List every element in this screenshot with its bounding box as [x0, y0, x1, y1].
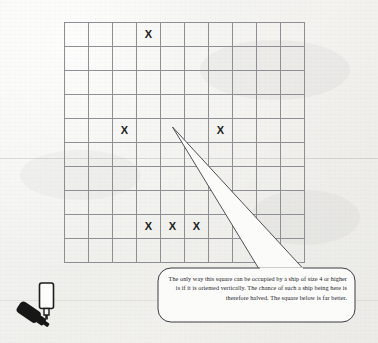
grid-cell-r9-c2[interactable] — [113, 239, 137, 263]
grid-cell-r1-c6[interactable] — [209, 47, 233, 71]
grid-cell-r7-c3[interactable] — [137, 191, 161, 215]
grid-cell-r1-c2[interactable] — [113, 47, 137, 71]
grid-cell-r9-c6[interactable] — [209, 239, 233, 263]
grid-cell-r0-c2[interactable] — [113, 23, 137, 47]
grid-cell-r7-c9[interactable] — [281, 191, 305, 215]
grid-cell-r3-c3[interactable] — [137, 95, 161, 119]
grid-cell-r3-c7[interactable] — [233, 95, 257, 119]
grid-cell-r0-c8[interactable] — [257, 23, 281, 47]
grid-cell-r5-c9[interactable] — [281, 143, 305, 167]
grid-cell-r3-c8[interactable] — [257, 95, 281, 119]
grid-cell-r0-c5[interactable] — [185, 23, 209, 47]
grid-cell-r6-c7[interactable] — [233, 167, 257, 191]
grid-cell-r4-c8[interactable] — [257, 119, 281, 143]
grid-cell-r1-c1[interactable] — [89, 47, 113, 71]
grid-cell-r1-c7[interactable] — [233, 47, 257, 71]
grid-cell-r9-c8[interactable] — [257, 239, 281, 263]
grid-cell-r7-c4[interactable] — [161, 191, 185, 215]
grid-cell-r0-c7[interactable] — [233, 23, 257, 47]
grid-cell-r9-c1[interactable] — [89, 239, 113, 263]
grid-cell-r5-c0[interactable] — [65, 143, 89, 167]
grid-cell-r9-c9[interactable] — [281, 239, 305, 263]
grid-cell-r6-c5[interactable] — [185, 167, 209, 191]
grid-cell-r8-c6[interactable] — [209, 215, 233, 239]
grid-cell-r3-c5[interactable] — [185, 95, 209, 119]
grid-cell-r1-c3[interactable] — [137, 47, 161, 71]
grid-cell-r9-c7[interactable] — [233, 239, 257, 263]
grid-cell-r7-c1[interactable] — [89, 191, 113, 215]
grid-cell-r1-c8[interactable] — [257, 47, 281, 71]
grid-cell-r6-c4[interactable] — [161, 167, 185, 191]
grid-cell-r6-c2[interactable] — [113, 167, 137, 191]
grid-cell-r1-c4[interactable] — [161, 47, 185, 71]
grid-cell-r4-c0[interactable] — [65, 119, 89, 143]
grid-cell-r8-c8[interactable] — [257, 215, 281, 239]
grid-cell-r9-c3[interactable] — [137, 239, 161, 263]
grid-cell-r4-c3[interactable] — [137, 119, 161, 143]
grid-cell-r0-c0[interactable] — [65, 23, 89, 47]
grid-cell-r3-c2[interactable] — [113, 95, 137, 119]
grid-cell-r4-c9[interactable] — [281, 119, 305, 143]
grid-cell-r0-c9[interactable] — [281, 23, 305, 47]
grid-cell-r3-c0[interactable] — [65, 95, 89, 119]
grid-cell-r6-c6[interactable] — [209, 167, 233, 191]
grid-cell-r7-c2[interactable] — [113, 191, 137, 215]
grid-cell-r6-c0[interactable] — [65, 167, 89, 191]
grid-cell-r2-c3[interactable] — [137, 71, 161, 95]
grid-cell-r8-c4[interactable]: X — [161, 215, 185, 239]
grid-cell-r4-c1[interactable] — [89, 119, 113, 143]
grid-cell-r5-c3[interactable] — [137, 143, 161, 167]
grid-cell-r7-c7[interactable] — [233, 191, 257, 215]
grid-cell-r5-c8[interactable] — [257, 143, 281, 167]
grid-cell-r2-c2[interactable] — [113, 71, 137, 95]
grid-cell-r7-c6[interactable] — [209, 191, 233, 215]
grid-cell-r5-c7[interactable] — [233, 143, 257, 167]
grid-cell-r2-c0[interactable] — [65, 71, 89, 95]
grid-cell-r5-c1[interactable] — [89, 143, 113, 167]
grid-cell-r8-c0[interactable] — [65, 215, 89, 239]
grid-cell-r8-c9[interactable] — [281, 215, 305, 239]
grid-cell-r5-c5[interactable] — [185, 143, 209, 167]
grid-cell-r6-c3[interactable] — [137, 167, 161, 191]
grid-cell-r6-c1[interactable] — [89, 167, 113, 191]
grid-cell-r3-c1[interactable] — [89, 95, 113, 119]
grid-cell-r0-c6[interactable] — [209, 23, 233, 47]
grid-cell-r9-c4[interactable] — [161, 239, 185, 263]
grid-cell-r4-c2[interactable]: X — [113, 119, 137, 143]
grid-cell-r2-c5[interactable] — [185, 71, 209, 95]
grid-cell-r4-c6[interactable]: X — [209, 119, 233, 143]
grid-cell-r5-c4[interactable] — [161, 143, 185, 167]
grid-cell-r0-c4[interactable] — [161, 23, 185, 47]
grid-cell-r7-c0[interactable] — [65, 191, 89, 215]
grid-cell-r3-c4[interactable] — [161, 95, 185, 119]
grid-cell-r6-c9[interactable] — [281, 167, 305, 191]
grid-cell-r6-c8[interactable] — [257, 167, 281, 191]
grid-cell-r2-c1[interactable] — [89, 71, 113, 95]
grid-cell-r5-c6[interactable] — [209, 143, 233, 167]
grid-cell-r4-c7[interactable] — [233, 119, 257, 143]
grid-cell-r2-c7[interactable] — [233, 71, 257, 95]
grid-cell-r5-c2[interactable] — [113, 143, 137, 167]
grid-cell-r8-c2[interactable] — [113, 215, 137, 239]
grid-cell-r3-c9[interactable] — [281, 95, 305, 119]
battleship-grid[interactable]: XXXXXX — [64, 22, 305, 263]
grid-cell-r8-c7[interactable] — [233, 215, 257, 239]
grid-cell-r4-c5[interactable] — [185, 119, 209, 143]
grid-cell-r1-c9[interactable] — [281, 47, 305, 71]
grid-cell-r9-c0[interactable] — [65, 239, 89, 263]
grid-cell-r0-c1[interactable] — [89, 23, 113, 47]
grid-cell-r2-c9[interactable] — [281, 71, 305, 95]
grid-cell-r3-c6[interactable] — [209, 95, 233, 119]
grid-cell-r8-c3[interactable]: X — [137, 215, 161, 239]
grid-cell-r9-c5[interactable] — [185, 239, 209, 263]
grid-cell-r2-c8[interactable] — [257, 71, 281, 95]
grid-cell-r0-c3[interactable]: X — [137, 23, 161, 47]
grid-cell-r4-c4[interactable] — [161, 119, 185, 143]
grid-cell-r7-c8[interactable] — [257, 191, 281, 215]
grid-cell-r2-c6[interactable] — [209, 71, 233, 95]
grid-cell-r8-c5[interactable]: X — [185, 215, 209, 239]
grid-cell-r7-c5[interactable] — [185, 191, 209, 215]
grid-cell-r1-c0[interactable] — [65, 47, 89, 71]
grid-cell-r8-c1[interactable] — [89, 215, 113, 239]
grid-cell-r2-c4[interactable] — [161, 71, 185, 95]
